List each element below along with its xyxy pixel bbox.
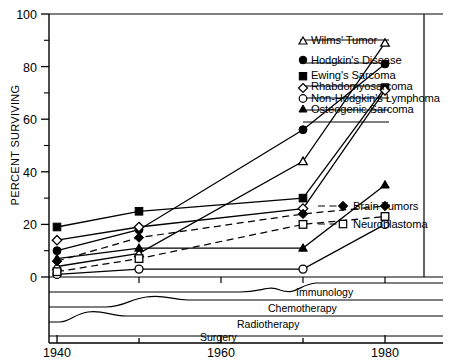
era-label-immunology: Immunology: [296, 286, 354, 298]
legend-marker-rhabdomyosarcoma: [299, 84, 308, 93]
era-curve-chemotherapy: [49, 296, 443, 307]
legend-lower: Brain Tumors Neuroblastoma: [318, 200, 428, 230]
legend-marker-non-hodgkins-lymphoma: [299, 95, 307, 103]
era-curve-immunology: [49, 283, 443, 292]
y-tick-20: 20: [23, 218, 37, 232]
legend-marker-ewings-sarcoma: [299, 73, 306, 80]
y-tick-40: 40: [23, 166, 37, 180]
legend-label-brain-tumors: Brain Tumors: [353, 200, 419, 212]
legend-marker-neuroblastoma: [339, 220, 346, 227]
x-tick-1940: 1940: [43, 346, 71, 360]
legend-marker-brain-tumors: [338, 201, 347, 210]
series-line-neuroblastoma: [57, 217, 385, 272]
marker-brain-tumors: [52, 201, 389, 266]
era-label-radiotherapy: Radiotherapy: [237, 318, 300, 330]
legend-label-rhabdomyosarcoma: Rhabdomyosarcoma: [311, 80, 414, 92]
y-axis-ticks-minor: [44, 40, 49, 250]
y-tick-60: 60: [23, 113, 37, 127]
legend-label-neuroblastoma: Neuroblastoma: [353, 218, 428, 230]
era-label-chemotherapy: Chemotherapy: [268, 302, 338, 314]
survival-chart-svg: 100 80 60 40 20 0 PERCENT SURVIVING 1940…: [0, 0, 457, 361]
era-label-surgery: Surgery: [200, 331, 238, 343]
x-tick-1960: 1960: [207, 346, 235, 360]
legend-label-osteogenic-sarcoma: Osteogenic Sarcoma: [311, 103, 415, 115]
x-tick-1980: 1980: [371, 346, 399, 360]
y-tick-0: 0: [30, 271, 37, 285]
legend-marker-hodgkins-disease: [299, 56, 307, 64]
y-tick-100: 100: [16, 8, 37, 22]
marker-neuroblastoma: [53, 213, 389, 276]
legend-upper: Wilms' Tumor Hodgkin's Disease Ewing's S…: [299, 34, 441, 115]
chart-figure: 100 80 60 40 20 0 PERCENT SURVIVING 1940…: [0, 0, 457, 361]
x-axis-tick-labels: 1940 1960 1980: [43, 346, 399, 360]
y-tick-80: 80: [23, 61, 37, 75]
legend-marker-osteogenic-sarcoma: [299, 105, 307, 112]
therapy-era-labels: Immunology Chemotherapy Radiotherapy Sur…: [200, 286, 354, 343]
legend-label-hodgkins-disease: Hodgkin's Disease: [311, 54, 402, 66]
x-axis-ticks-plot: [139, 277, 385, 283]
y-axis-title: PERCENT SURVIVING: [9, 85, 21, 206]
legend-label-wilms-tumor: Wilms' Tumor: [311, 34, 378, 46]
